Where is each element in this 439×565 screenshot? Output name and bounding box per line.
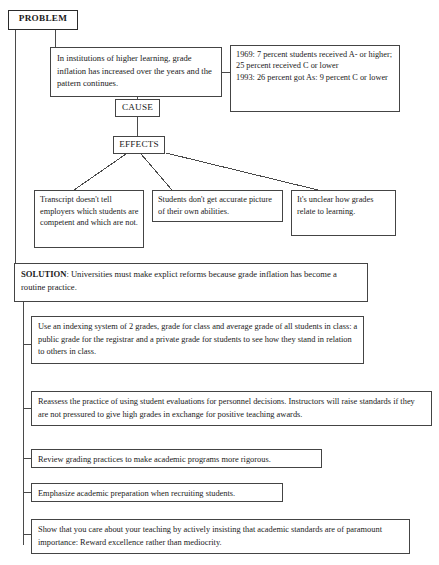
connector-effects-2 [141, 154, 172, 190]
step-box-1: Use an indexing system of 2 grades, grad… [31, 316, 364, 364]
cause-label-box: CAUSE [115, 99, 160, 117]
effects-label-text: EFFECTS [119, 139, 159, 149]
step-text-4: Emphasize academic preparation when recr… [38, 489, 235, 498]
problem-statement-box: In institutions of higher learning, grad… [50, 47, 222, 97]
statistics-text: 1969: 7 percent students received A- or … [236, 50, 394, 82]
effect-text-2: Students don't get accurate picture of t… [158, 195, 272, 216]
flow-chart-canvas: PROBLEM In institutions of higher learni… [0, 0, 439, 565]
step-text-5: Show that you care about your teaching b… [38, 525, 382, 547]
step-box-4: Emphasize academic preparation when recr… [31, 483, 283, 502]
step-text-1: Use an indexing system of 2 grades, grad… [38, 322, 357, 356]
effects-label-box: EFFECTS [113, 136, 165, 154]
solution-lead-text: SOLUTION [21, 269, 66, 279]
statistics-box: 1969: 7 percent students received A- or … [230, 45, 400, 112]
step-text-3: Review grading practices to make academi… [38, 455, 271, 464]
effect-text-3: It's unclear how grades relate to learni… [297, 195, 373, 216]
step-box-2: Reassess the practice of using student e… [31, 391, 432, 426]
solution-box: SOLUTION: Universities must make explict… [14, 263, 368, 302]
connector-effects-3 [166, 153, 318, 190]
step-box-3: Review grading practices to make academi… [31, 449, 322, 468]
cause-label-text: CAUSE [122, 102, 153, 112]
problem-label-text: PROBLEM [19, 13, 68, 23]
solution-body-text: : Universities must make explict reforms… [21, 269, 337, 292]
problem-label-box: PROBLEM [8, 10, 78, 30]
connector-effects-1 [74, 154, 126, 190]
step-text-2: Reassess the practice of using student e… [38, 397, 415, 419]
effect-box-3: It's unclear how grades relate to learni… [291, 190, 396, 236]
problem-statement-text: In institutions of higher learning, grad… [57, 53, 212, 88]
step-box-5: Show that you care about your teaching b… [31, 519, 410, 554]
effect-box-2: Students don't get accurate picture of t… [152, 190, 283, 222]
effect-box-1: Transcript doesn't tell employers which … [34, 190, 144, 248]
effect-text-1: Transcript doesn't tell employers which … [40, 195, 138, 227]
